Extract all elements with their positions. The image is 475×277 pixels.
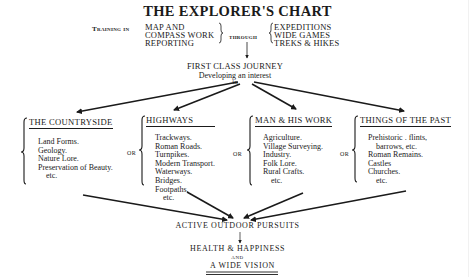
countryside-brace [21, 118, 27, 184]
man-work-brace [247, 116, 253, 185]
diagram-connectors [0, 0, 475, 277]
arrow-from-man-work-icon [244, 193, 303, 218]
arrow-to-countryside-icon [77, 82, 238, 112]
skills-brace [219, 23, 223, 43]
arrow-to-man-work-icon [252, 84, 296, 109]
highways-brace [139, 116, 145, 185]
arrow-from-countryside-icon [83, 195, 227, 220]
past-brace [352, 116, 358, 182]
methods-brace [269, 23, 273, 43]
arrow-to-past-icon [254, 82, 404, 111]
